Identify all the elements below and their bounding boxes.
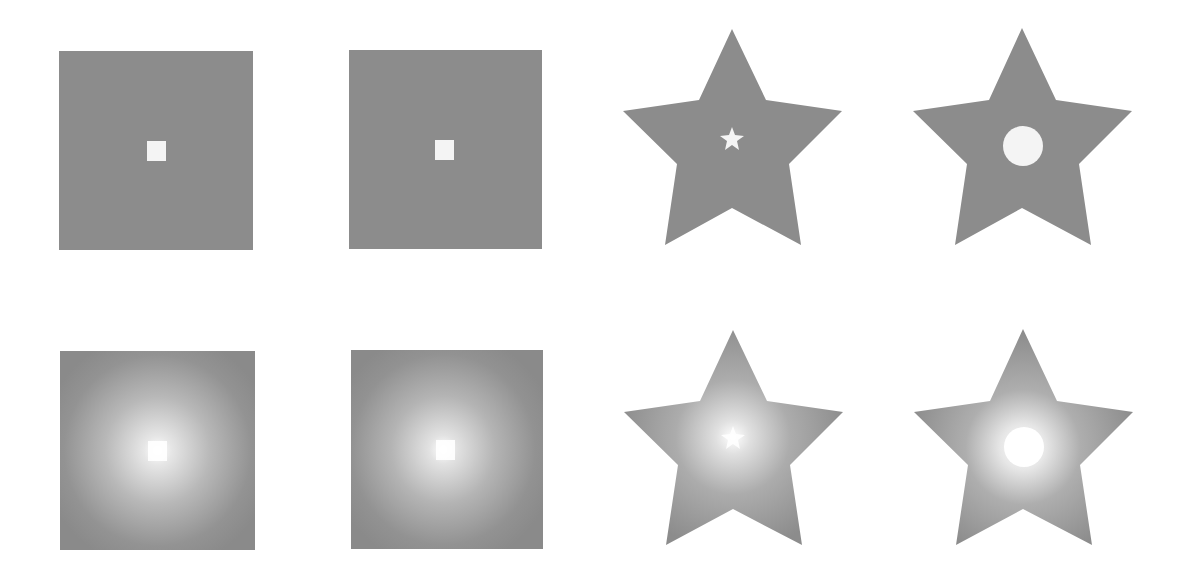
inner-circle-highlight [1003,126,1043,166]
panel-flat-star-star [623,29,842,245]
panel-gradient-square-offset [351,350,543,549]
inner-circle-highlight [1004,427,1044,467]
panel-gradient-square-center [60,351,255,550]
panel-flat-star-circle [913,28,1132,245]
panel-flat-square-offset [349,50,542,249]
panel-gradient-star-circle [914,329,1133,545]
panel-flat-square-center [59,51,253,250]
inner-square-highlight [148,441,167,461]
inner-square-highlight [435,140,454,160]
inner-square-highlight [147,141,166,161]
figure-canvas [0,0,1193,581]
panel-gradient-star-star [624,330,843,545]
inner-square-highlight [436,440,455,460]
